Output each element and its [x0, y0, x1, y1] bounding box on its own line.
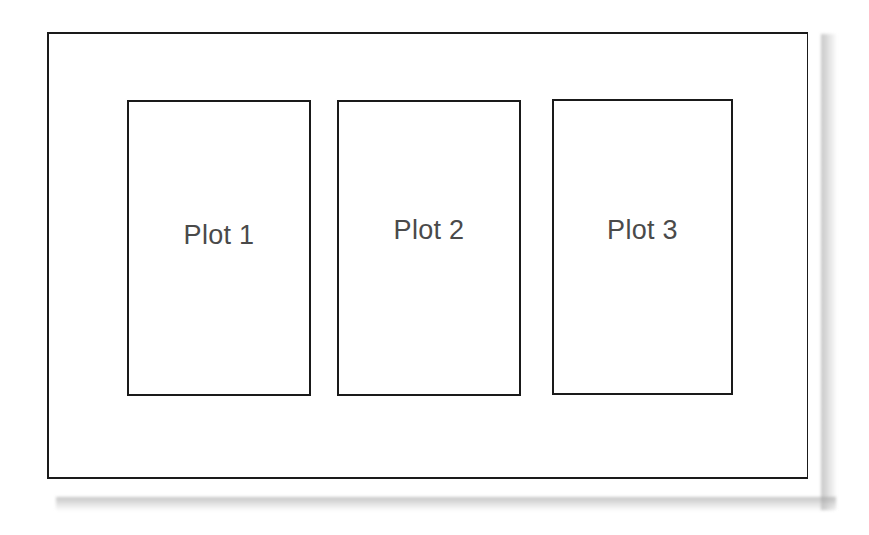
drop-shadow-right — [821, 34, 837, 510]
drop-shadow-bottom — [56, 497, 836, 511]
plot-panel-2-label: Plot 2 — [339, 215, 519, 246]
plot-panel-1-label: Plot 1 — [129, 220, 309, 251]
plot-panel-3-label: Plot 3 — [554, 215, 731, 246]
plot-panel-3: Plot 3 — [552, 99, 733, 395]
plot-panel-1: Plot 1 — [127, 100, 311, 396]
plot-panel-2: Plot 2 — [337, 100, 521, 396]
